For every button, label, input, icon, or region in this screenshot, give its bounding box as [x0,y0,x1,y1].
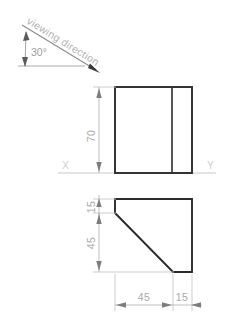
dim-label-width-45: 45 [138,291,150,303]
dim-arrow-70-top [96,88,101,98]
top-view-outline [115,199,192,272]
dim-arrow-width-15-right [191,302,201,307]
front-view-outline [115,87,192,173]
top-view [115,199,192,272]
dim-arrow-45-bottom [96,261,101,271]
dim-label-15-vertical: 15 [85,201,97,213]
dim-arrow-15-top [96,199,101,208]
front-view [115,87,192,173]
technical-drawing-canvas: 30° viewing direction X Y 70 [0,0,232,328]
angle-arrowhead-top [23,31,30,41]
viewing-direction-annotation: 30° viewing direction [18,14,102,73]
dim-label-width-15: 15 [176,291,188,303]
dim-arrow-45-top [96,214,101,224]
viewing-direction-label: viewing direction [25,14,102,67]
dim-label-45-vertical: 45 [85,237,97,249]
engineering-drawing: 30° viewing direction X Y 70 [0,0,232,328]
angle-label: 30° [31,46,47,58]
dim-label-70: 70 [85,130,97,142]
angle-arrowhead-bottom [22,57,28,67]
dim-arrow-width-45-right [162,302,172,307]
axis-label-y: Y [207,159,214,171]
dim-arrow-width-45-left [116,302,126,307]
dimension-front-height: 70 [85,87,116,173]
dimension-top-offset: 15 [85,195,116,217]
dimension-widths: 45 15 [115,274,202,311]
axis-label-x: X [62,159,69,171]
dimension-diagonal-drop: 45 [85,213,174,272]
dim-arrow-70-bottom [96,162,101,172]
